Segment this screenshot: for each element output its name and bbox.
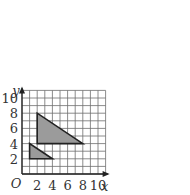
y-tick-label: 6 [10, 121, 18, 136]
x-tick-label: 8 [79, 178, 87, 193]
y-tick-label: 2 [10, 152, 18, 167]
x-tick-label: 2 [33, 178, 41, 193]
x-tick-label: 4 [48, 178, 56, 193]
x-tick-label: 6 [63, 178, 71, 193]
y-tick-label: 8 [10, 106, 18, 121]
coordinate-grid-chart: 246810246810Oxy [0, 0, 190, 195]
x-axis-label: x [101, 179, 109, 194]
origin-label: O [11, 176, 22, 191]
y-axis-arrow-icon [19, 86, 25, 93]
y-axis-label: y [11, 83, 20, 98]
y-tick-label: 4 [10, 137, 18, 152]
x-axis-arrow-icon [103, 171, 110, 177]
